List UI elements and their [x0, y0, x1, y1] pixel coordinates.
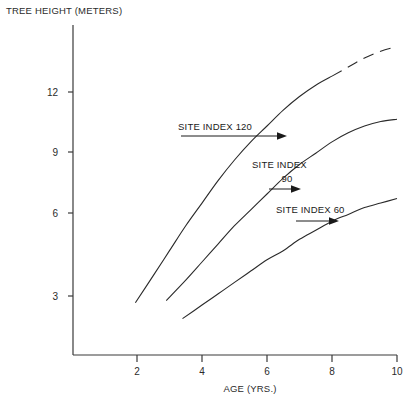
- x-axis-title: AGE (YRS.): [223, 383, 276, 394]
- annotation-site-index-60: SITE INDEX 60: [276, 204, 345, 225]
- y-tick-label-3: 3: [52, 291, 58, 302]
- series-line-site-index-60: [183, 199, 398, 319]
- annotation-site-index-60-label: SITE INDEX 60: [276, 204, 345, 215]
- annotation-site-index-90-label-line1: SITE INDEX: [252, 159, 307, 170]
- y-axis-title: TREE HEIGHT (METERS): [6, 5, 122, 16]
- annotation-site-index-120-label: SITE INDEX 120: [178, 121, 252, 132]
- chart-svg: TREE HEIGHT (METERS) 12 9 6 3 2 4: [0, 0, 413, 404]
- x-tick-label-10: 10: [391, 366, 403, 377]
- annotation-site-index-90: SITE INDEX 90: [252, 159, 307, 193]
- x-tick-label-6: 6: [264, 366, 270, 377]
- x-axis-tick-labels: 2 4 6 8 10: [134, 366, 403, 377]
- x-axis-ticks: [137, 355, 397, 362]
- annotation-site-index-120: SITE INDEX 120: [178, 121, 287, 140]
- y-tick-label-9: 9: [52, 147, 58, 158]
- tree-height-growth-chart: TREE HEIGHT (METERS) 12 9 6 3 2 4: [0, 0, 413, 404]
- data-series-group: [135, 47, 397, 319]
- y-tick-label-12: 12: [47, 87, 59, 98]
- y-axis-tick-labels: 12 9 6 3: [47, 87, 59, 302]
- y-axis-ticks: [68, 92, 73, 296]
- x-tick-label-4: 4: [199, 366, 205, 377]
- series-line-site-index-120: [135, 76, 332, 303]
- series-line-site-index-120-extrapolated: [332, 47, 397, 76]
- annotation-site-index-120-arrow-head: [277, 132, 287, 140]
- annotation-site-index-90-arrow-head: [291, 185, 301, 193]
- y-tick-label-6: 6: [52, 208, 58, 219]
- x-tick-label-2: 2: [134, 366, 140, 377]
- annotation-site-index-90-label-line2: 90: [282, 173, 293, 184]
- x-tick-label-8: 8: [329, 366, 335, 377]
